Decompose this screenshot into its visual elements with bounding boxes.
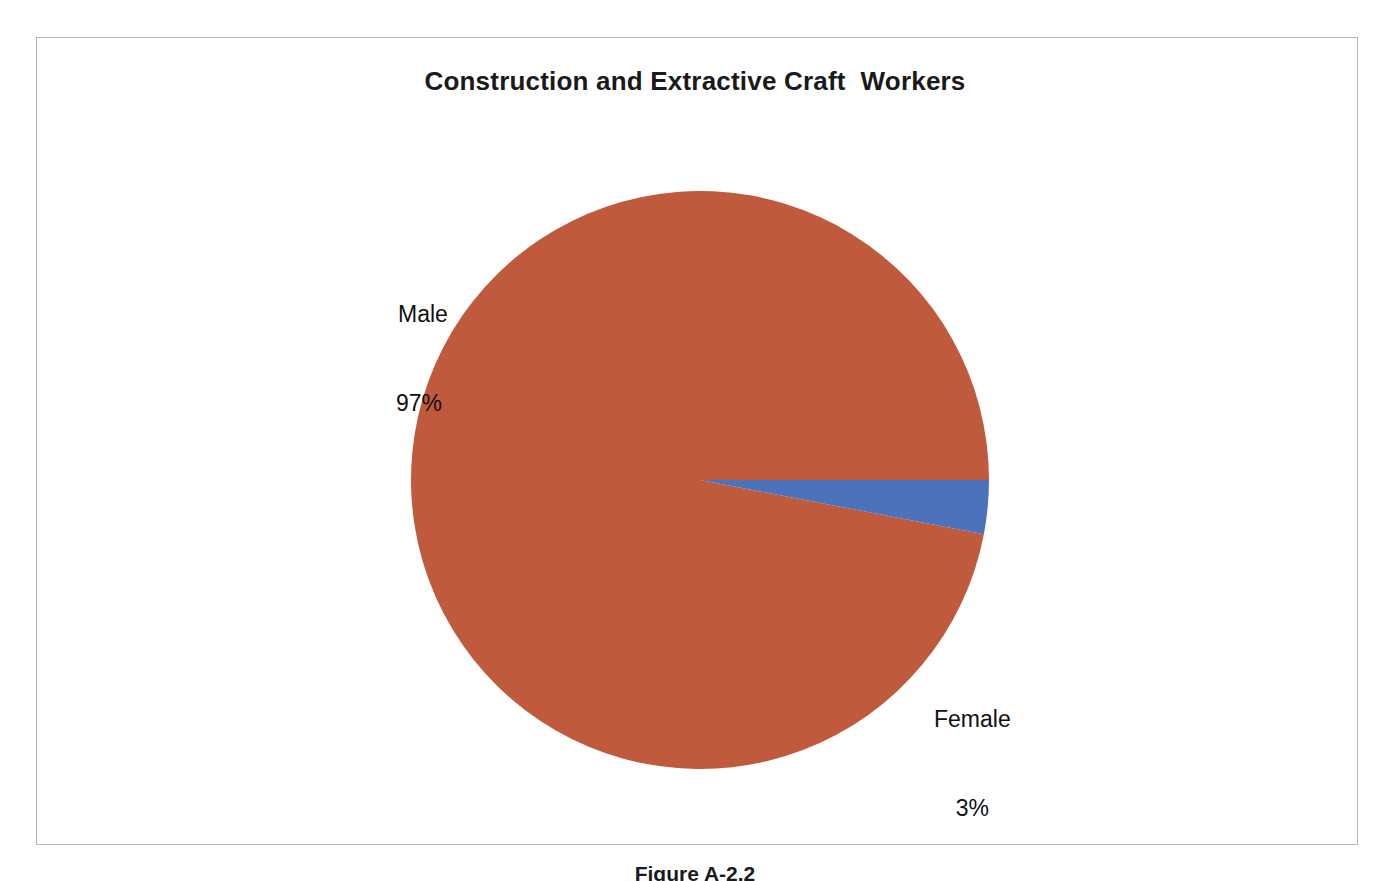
pie-label-male-name: Male	[396, 300, 448, 330]
figure-caption: Figure A-2.2	[0, 862, 1390, 881]
pie-label-female-value: 3%	[934, 794, 1011, 824]
chart-title: Construction and Extractive Craft Worker…	[0, 66, 1390, 97]
pie-chart-svg	[36, 37, 1358, 845]
pie-slice-male[interactable]	[411, 191, 989, 769]
pie-label-female-name: Female	[934, 705, 1011, 735]
pie-label-male: Male 97%	[396, 240, 448, 449]
pie-chart-area	[36, 37, 1358, 845]
pie-label-male-value: 97%	[396, 389, 448, 419]
pie-label-female: Female 3%	[934, 645, 1011, 854]
